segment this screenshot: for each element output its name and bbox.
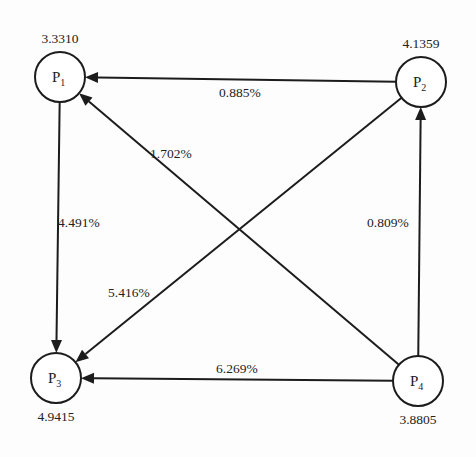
edge-line xyxy=(98,78,396,82)
edge-label-p2-p1: 0.885% xyxy=(219,85,261,100)
edge-label-p4-p2: 0.809% xyxy=(367,215,409,230)
node-label-main: P xyxy=(410,373,418,389)
node-p4: P43.8805 xyxy=(393,356,443,427)
node-value-p1: 3.3310 xyxy=(41,31,78,46)
edge-p2-to-p1 xyxy=(85,72,396,83)
node-label-main: P xyxy=(52,69,60,85)
node-value-p3: 4.9415 xyxy=(37,409,74,424)
edge-labels-layer: 0.885%1.702%4.491%0.809%5.416%6.269% xyxy=(58,85,409,376)
edge-line xyxy=(94,378,393,380)
edge-line xyxy=(89,102,399,365)
diagram-canvas: P13.3310P24.1359P34.9415P43.8805 0.885%1… xyxy=(0,0,476,457)
node-label-main: P xyxy=(413,74,421,90)
edge-line xyxy=(86,98,402,354)
node-label-subscript: 1 xyxy=(60,77,65,88)
node-label-subscript: 3 xyxy=(56,378,61,389)
node-p3: P34.9415 xyxy=(31,353,81,424)
arrowhead-icon xyxy=(415,107,426,120)
node-value-p4: 3.8805 xyxy=(399,412,436,427)
edge-label-p4-p1: 1.702% xyxy=(150,146,192,161)
arrowhead-icon xyxy=(51,340,62,353)
arrowhead-icon xyxy=(81,373,94,384)
edge-p2-to-p3 xyxy=(75,98,401,363)
edge-line xyxy=(418,120,420,356)
node-p1: P13.3310 xyxy=(35,31,85,102)
edge-label-p2-p3: 5.416% xyxy=(108,285,150,300)
edge-p4-to-p2 xyxy=(415,107,426,356)
node-label-subscript: 4 xyxy=(418,381,423,392)
node-label-subscript: 2 xyxy=(421,82,426,93)
node-label-main: P xyxy=(48,370,56,386)
edge-label-p4-p3: 6.269% xyxy=(216,361,258,376)
edge-label-p1-p3: 4.491% xyxy=(58,215,100,230)
node-p2: P24.1359 xyxy=(396,36,446,107)
arrowhead-icon xyxy=(85,72,98,83)
node-value-p2: 4.1359 xyxy=(402,36,439,51)
flow-diagram: P13.3310P24.1359P34.9415P43.8805 0.885%1… xyxy=(0,0,476,457)
